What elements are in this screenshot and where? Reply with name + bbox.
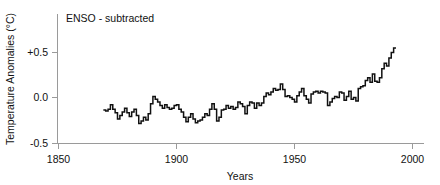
- x-tick-label-1850: 1850: [47, 153, 71, 165]
- y-axis-title: Temperature Anomalies (°C): [4, 13, 16, 145]
- y-tick-label-1: 0.0: [33, 91, 48, 103]
- x-tick-label-1900: 1900: [165, 153, 189, 165]
- y-tick-label-2: -0.5: [30, 137, 48, 149]
- x-axis-title: Years: [227, 170, 253, 182]
- chart-container: +0.5 0.0 -0.5 1850 1900 1950 2000 Years …: [0, 0, 440, 185]
- y-tick-marks: [52, 53, 58, 144]
- data-series-line: [103, 48, 396, 124]
- x-tick-label-1950: 1950: [283, 153, 307, 165]
- x-tick-label-2000: 2000: [401, 153, 425, 165]
- x-tick-marks: [59, 144, 413, 150]
- temperature-anomaly-line-chart: +0.5 0.0 -0.5 1850 1900 1950 2000 Years …: [0, 0, 440, 185]
- plot-title-annotation: ENSO - subtracted: [66, 12, 154, 24]
- y-tick-label-0: +0.5: [27, 46, 48, 58]
